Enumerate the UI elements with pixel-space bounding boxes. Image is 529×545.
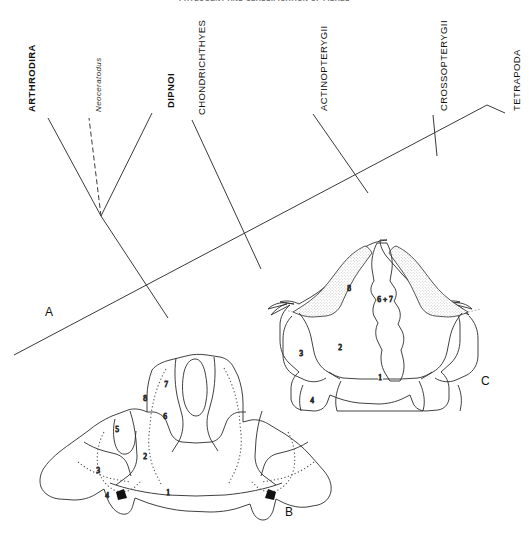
skull-b-number-4: 4 xyxy=(105,491,109,500)
skull-c-number-6-7: 6 + 7 xyxy=(377,295,393,304)
branch-crossopterygii xyxy=(433,115,437,156)
skull-b-number-8: 8 xyxy=(143,394,147,403)
branch-actinopterygii xyxy=(313,114,368,193)
skull-b-number-2: 2 xyxy=(143,452,147,461)
taxon-label-arthrodira: ARTHRODIRA xyxy=(26,44,37,112)
panel-letter-a: A xyxy=(45,305,53,319)
taxon-label-dipnoi: DIPNOI xyxy=(165,73,176,108)
taxon-label-actinopterygii: ACTINOPTERYGII xyxy=(318,25,329,111)
branch-neoceratodus-dashed xyxy=(89,118,101,216)
panel-letter-b: B xyxy=(285,505,293,519)
skull-b-number-1: 1 xyxy=(166,488,170,497)
skull-c-number-4: 4 xyxy=(310,396,314,405)
taxon-label-crossopterygii: CROSSOPTERYGII xyxy=(438,20,449,111)
skull-c-artwork: 8 6 + 7 2 3 1 4 xyxy=(268,240,481,411)
skull-c-number-3: 3 xyxy=(299,349,303,358)
skull-c-suture-4-right xyxy=(458,385,461,411)
skull-b-artwork: 7 8 6 5 2 3 4 1 xyxy=(40,354,331,520)
branch-node-dipnoi-stem xyxy=(101,216,168,318)
branch-dipnoi xyxy=(101,113,152,216)
skull-b-outline xyxy=(40,354,331,520)
skull-c-number-1: 1 xyxy=(378,373,382,382)
panel-letter-c: C xyxy=(481,374,490,388)
figure-artwork: 7 8 6 5 2 3 4 1 xyxy=(0,0,529,545)
branch-chondrichthyes xyxy=(192,120,261,269)
skull-b-number-6: 6 xyxy=(163,412,167,421)
skull-c-number-8: 8 xyxy=(347,284,351,293)
taxon-label-neoceratodus: Neoceratodus xyxy=(94,57,103,112)
figure-container: PHYLOGENY AND CLASSIFICATION OF FISHES xyxy=(0,0,529,545)
taxon-label-chondrichthyes: CHONDRICHTHYES xyxy=(196,20,207,115)
skull-b-number-3: 3 xyxy=(96,466,100,475)
branch-tetrapoda xyxy=(487,105,505,113)
skull-b-number-5: 5 xyxy=(115,425,119,434)
skull-b-number-7: 7 xyxy=(164,380,168,389)
branch-arthrodira xyxy=(48,118,101,216)
skull-c-number-2: 2 xyxy=(338,343,342,352)
taxon-label-tetrapoda: TETRAPODA xyxy=(511,49,522,111)
skull-c-outline xyxy=(268,240,472,411)
